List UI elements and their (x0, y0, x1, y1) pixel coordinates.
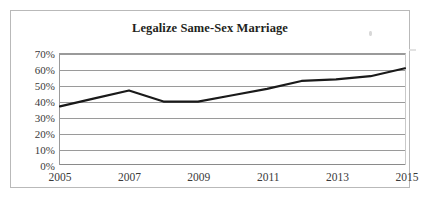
x-tick-label: 2013 (326, 171, 349, 183)
y-tick-label: 40% (35, 96, 55, 108)
x-tick-label: 2011 (257, 171, 280, 183)
y-tick-label: 60% (35, 64, 55, 76)
scan-artifact-speck (369, 31, 372, 36)
data-line-series (60, 54, 405, 165)
chart-title: Legalize Same-Sex Marriage (11, 21, 409, 36)
chart-figure: Legalize Same-Sex Marriage 0%10%20%30%40… (10, 10, 410, 188)
y-tick-label: 30% (35, 112, 55, 124)
plot-area: 0%10%20%30%40%50%60%70% 2005200720092011… (59, 53, 406, 165)
x-tick-label: 2009 (187, 171, 210, 183)
x-tick-label: 2005 (49, 171, 72, 183)
x-tick-label: 2007 (118, 171, 141, 183)
y-tick-label: 20% (35, 128, 55, 140)
y-tick-label: 70% (35, 48, 55, 60)
x-tick-label: 2015 (396, 171, 419, 183)
y-tick-label: 50% (35, 80, 55, 92)
scan-artifact-edge (409, 49, 416, 51)
y-tick-label: 10% (35, 144, 55, 156)
data-line-path (60, 68, 405, 106)
